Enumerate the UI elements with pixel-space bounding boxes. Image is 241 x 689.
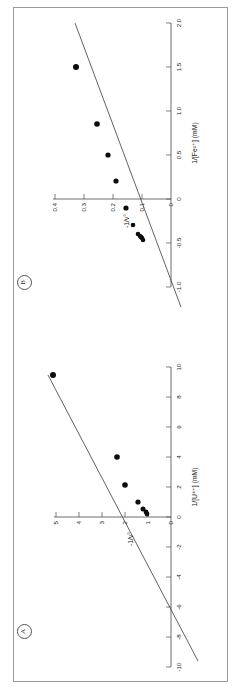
panel-b: -1.0 -0.5 0 0.5 1.0 1.5 2.0 1/[Fe²⁺] (mM…	[0, 0, 241, 345]
data-point	[140, 506, 145, 511]
panel-b-data-points	[73, 64, 145, 242]
panel-a-ytick-1: 1	[144, 520, 151, 524]
panel-a-xtick-5: 0	[175, 514, 182, 518]
panel-a: -10 -8 -6 -4 -2 0 2 4 6 8 10 1/[U⁴⁺] (mM…	[0, 344, 241, 689]
panel-b-y-axis: 0 0.1 0.2 0.3 0.4 -1/v°	[51, 194, 174, 228]
panel-b-xtick-2: 0	[175, 196, 182, 200]
data-point	[123, 205, 128, 210]
data-point	[122, 482, 128, 488]
panel-a-xtick-8: 6	[175, 424, 182, 428]
panel-b-xtick-6: 2.0	[175, 18, 182, 27]
panel-a-ytick-5: 5	[52, 520, 59, 524]
panel-b-ytick-3: 0.3	[80, 202, 87, 211]
panel-b-y-axis-title: -1/v°	[123, 213, 130, 227]
panel-label-a-text: A	[19, 629, 27, 634]
panel-b-x-axis: -1.0 -0.5 0 0.5 1.0 1.5 2.0 1/[Fe²⁺] (mM…	[166, 18, 199, 292]
panel-b-xtick-0: -1.0	[175, 281, 182, 292]
panel-a-y-axis: 0 1 2 3 4 5 -1/v°	[52, 512, 174, 546]
panel-b-x-axis-title: 1/[Fe²⁺] (mM)	[191, 122, 199, 163]
panel-b-xtick-1: -0.5	[175, 237, 182, 248]
data-point	[135, 231, 140, 236]
panel-b-xtick-5: 1.5	[175, 62, 182, 71]
panel-a-xtick-6: 2	[175, 484, 182, 488]
data-point	[114, 454, 120, 460]
panel-b-ytick-4: 0.4	[51, 202, 58, 211]
panel-label-b-text: B	[19, 280, 27, 285]
panel-b-xtick-3: 0.5	[175, 150, 182, 159]
panel-b-ytick-0: 0	[167, 202, 174, 206]
panel-a-xtick-0: -10	[175, 661, 182, 671]
panel-a-xtick-7: 4	[175, 454, 182, 458]
data-point	[130, 222, 135, 227]
panel-a-plot: -10 -8 -6 -4 -2 0 2 4 6 8 10 1/[U⁴⁺] (mM…	[21, 357, 221, 677]
panel-a-xtick-4: -2	[175, 543, 182, 549]
panel-a-xtick-1: -8	[175, 633, 182, 639]
data-point	[113, 178, 118, 183]
data-point	[73, 64, 79, 70]
panel-a-y-axis-title: -1/v°	[127, 531, 134, 545]
panel-a-data-points	[50, 372, 149, 516]
data-point	[50, 372, 56, 378]
panel-a-ytick-4: 4	[75, 520, 82, 524]
data-point	[105, 152, 110, 157]
panel-a-ytick-3: 3	[98, 520, 105, 524]
panel-a-rotated-canvas: -10 -8 -6 -4 -2 0 2 4 6 8 10 1/[U⁴⁺] (mM…	[21, 357, 221, 677]
panel-label-b: B	[17, 275, 32, 290]
panel-a-x-axis-title: 1/[U⁴⁺] (mM)	[191, 467, 199, 506]
data-point	[94, 121, 100, 127]
data-point	[135, 499, 140, 504]
panel-b-xtick-4: 1.0	[175, 106, 182, 115]
panel-a-xtick-9: 8	[175, 394, 182, 398]
panel-a-xtick-10: 10	[175, 363, 182, 370]
panel-a-xtick-2: -6	[175, 603, 182, 609]
panel-b-fit-line	[75, 23, 181, 307]
panel-a-xtick-3: -4	[175, 573, 182, 579]
panel-a-ytick-0: 0	[167, 520, 174, 524]
panel-label-a: A	[17, 624, 32, 639]
panel-b-plot: -1.0 -0.5 0 0.5 1.0 1.5 2.0 1/[Fe²⁺] (mM…	[21, 13, 221, 333]
panel-b-rotated-canvas: -1.0 -0.5 0 0.5 1.0 1.5 2.0 1/[Fe²⁺] (mM…	[21, 13, 221, 333]
figure-page: -1.0 -0.5 0 0.5 1.0 1.5 2.0 1/[Fe²⁺] (mM…	[0, 0, 241, 689]
panel-b-ytick-2: 0.2	[109, 202, 116, 211]
